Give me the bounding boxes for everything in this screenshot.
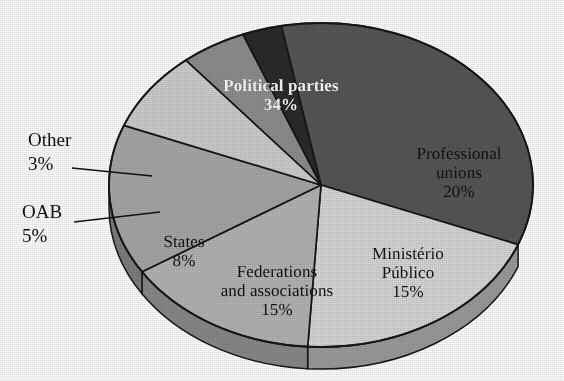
slice-label-ministerio-publico-line1: Ministério: [372, 244, 444, 263]
slice-label-professional-unions-line1: Professional: [416, 144, 501, 163]
callout-value-oab: 5%: [22, 224, 62, 248]
callout-label-oab-text: OAB: [22, 201, 62, 222]
slice-label-political-parties-text: Political parties: [223, 76, 338, 95]
slice-value-professional-unions: 20%: [398, 182, 520, 201]
slice-value-ministerio-publico: 15%: [350, 282, 466, 301]
callout-label-other-text: Other: [28, 129, 71, 150]
slice-value-states: 8%: [142, 251, 226, 270]
callout-label-other: Other 3%: [28, 128, 71, 176]
slice-label-states: States 8%: [142, 232, 226, 270]
callout-value-other: 3%: [28, 152, 71, 176]
slice-label-federations-associations: Federations and associations 15%: [196, 262, 358, 319]
slice-value-federations-associations: 15%: [196, 300, 358, 319]
slice-label-professional-unions: Professional unions 20%: [398, 144, 520, 201]
pie-chart-figure: Political parties 34% Professional union…: [0, 0, 564, 381]
slice-label-federations-associations-line1: Federations: [237, 262, 317, 281]
slice-label-political-parties: Political parties 34%: [186, 76, 376, 114]
slice-label-states-text: States: [163, 232, 204, 251]
slice-label-professional-unions-line2: unions: [398, 163, 520, 182]
slice-label-federations-associations-line2: and associations: [196, 281, 358, 300]
slice-label-ministerio-publico-line2: Público: [350, 263, 466, 282]
callout-label-oab: OAB 5%: [22, 200, 62, 248]
slice-value-political-parties: 34%: [186, 95, 376, 114]
slice-label-ministerio-publico: Ministério Público 15%: [350, 244, 466, 301]
